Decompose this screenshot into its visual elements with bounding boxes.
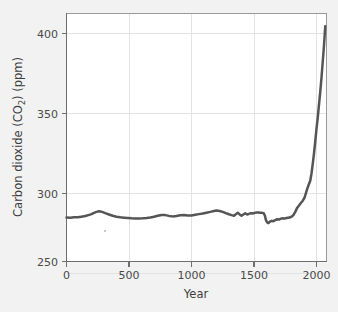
plot-area-frame [67, 14, 327, 262]
x-tick-label-1000: 1000 [178, 269, 206, 282]
x-tick-label-0: 0 [63, 269, 70, 282]
y-tick-label-300: 300 [37, 188, 58, 201]
svg-text:Carbon dioxide (CO2) (ppm): Carbon dioxide (CO2) (ppm) [11, 57, 27, 217]
co2-line-chart: 400 350 300 250 0 500 1000 1500 2000 Yea… [0, 0, 338, 312]
x-axis-title: Year [183, 287, 209, 301]
x-tick-label-2000: 2000 [303, 269, 331, 282]
scan-speck-artifact [104, 230, 106, 232]
y-axis-title-after: ) (ppm) [11, 57, 25, 100]
y-axis-title: Carbon dioxide (CO2) (ppm) [11, 57, 27, 217]
y-tick-label-350: 350 [37, 108, 58, 121]
x-tick-label-1500: 1500 [240, 269, 268, 282]
chart-figure: 400 350 300 250 0 500 1000 1500 2000 Yea… [0, 0, 338, 312]
y-tick-label-400: 400 [37, 28, 58, 41]
x-tick-label-500: 500 [119, 269, 140, 282]
y-tick-label-250: 250 [37, 256, 58, 269]
y-axis-title-before: Carbon dioxide (CO [11, 105, 25, 217]
